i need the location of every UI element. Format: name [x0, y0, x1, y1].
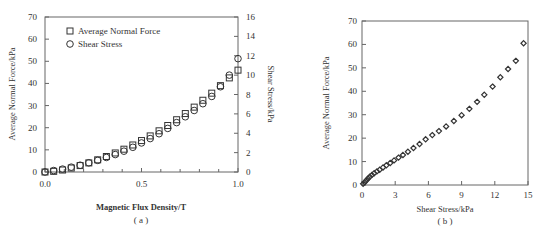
circle-marker — [86, 159, 93, 166]
x-tick-label: 0.0 — [39, 179, 51, 189]
x-tick-label: 12 — [490, 190, 499, 200]
plot-frame-b — [362, 21, 528, 185]
data-points-b — [361, 41, 527, 187]
diamond-marker — [482, 92, 487, 97]
panel-label-b: ( b ) — [438, 216, 453, 226]
y-tick-label: 0 — [33, 167, 38, 177]
axis-ticks-a: 01020304050607002468101214160.00.51.0 — [28, 12, 256, 189]
panel-label-a: ( a ) — [134, 215, 149, 225]
y-axis-label-a: Average Normal Force/kPa — [7, 47, 17, 140]
circle-marker — [138, 140, 145, 147]
y2-axis-label-a: Shear Stress/kPa — [266, 66, 276, 123]
y-axis-label-b: Average Normal Force/kPa — [321, 56, 331, 149]
x-tick-label: 1.0 — [232, 179, 244, 189]
y-tick-label: 20 — [348, 133, 358, 143]
circle-marker — [121, 148, 128, 155]
data-points-a — [42, 55, 242, 175]
circle-marker — [112, 151, 119, 158]
y-tick-label: 10 — [28, 145, 38, 155]
legend-circle-icon — [67, 41, 74, 48]
diamond-marker — [444, 124, 449, 129]
diamond-marker — [467, 106, 472, 111]
diamond-marker — [405, 149, 410, 154]
diamond-marker — [411, 145, 416, 150]
y2-tick-label: 14 — [246, 31, 256, 41]
y-tick-label: 50 — [348, 63, 358, 73]
y2-tick-label: 2 — [246, 148, 251, 158]
diamond-marker — [451, 118, 456, 123]
figure: 01020304050607002468101214160.00.51.0 Av… — [0, 0, 540, 241]
diamond-marker — [490, 84, 495, 89]
diamond-marker — [430, 132, 435, 137]
y-tick-label: 40 — [348, 86, 358, 96]
y-tick-label: 20 — [28, 123, 38, 133]
y2-tick-label: 0 — [246, 167, 251, 177]
y-tick-label: 10 — [348, 157, 358, 167]
legend-a: Average Normal Force Shear Stress — [67, 26, 161, 49]
y2-tick-label: 16 — [246, 12, 256, 22]
diamond-marker — [498, 75, 503, 80]
chart-b: 01020304050607003691215 Shear Stress/kPa… — [321, 16, 533, 226]
y-tick-label: 30 — [28, 101, 38, 111]
y-tick-label: 40 — [28, 78, 38, 88]
x-tick-label: 0 — [360, 190, 365, 200]
y-tick-label: 30 — [348, 110, 358, 120]
diamond-marker — [459, 113, 464, 118]
y2-tick-label: 8 — [246, 90, 251, 100]
y-tick-label: 70 — [28, 12, 38, 22]
x-tick-label: 0.5 — [136, 179, 148, 189]
diamond-marker — [521, 41, 526, 46]
legend-square-icon — [67, 28, 73, 34]
y2-tick-label: 10 — [246, 70, 256, 80]
diamond-marker — [423, 137, 428, 142]
y-tick-label: 50 — [28, 56, 38, 66]
diamond-marker — [436, 129, 441, 134]
x-tick-label: 9 — [459, 190, 464, 200]
legend-label-normal-force: Average Normal Force — [78, 26, 160, 36]
diamond-marker — [505, 66, 510, 71]
y-tick-label: 60 — [28, 34, 38, 44]
y-tick-label: 0 — [353, 180, 358, 190]
circle-marker — [130, 144, 137, 151]
x-tick-label: 15 — [524, 190, 534, 200]
y2-tick-label: 4 — [246, 128, 251, 138]
x-axis-label-a: Magnetic Flux Density/T — [96, 202, 187, 212]
y2-tick-label: 12 — [246, 51, 255, 61]
y-tick-label: 70 — [348, 16, 358, 26]
legend-label-shear-stress: Shear Stress — [78, 39, 123, 49]
x-axis-label-b: Shear Stress/kPa — [417, 204, 474, 214]
y-tick-label: 60 — [348, 39, 358, 49]
chart-a: 01020304050607002468101214160.00.51.0 Av… — [7, 12, 276, 225]
diamond-marker — [417, 141, 422, 146]
y2-tick-label: 6 — [246, 109, 251, 119]
diamond-marker — [513, 58, 518, 63]
x-tick-label: 3 — [393, 190, 398, 200]
x-tick-label: 6 — [426, 190, 431, 200]
diamond-marker — [474, 99, 479, 104]
